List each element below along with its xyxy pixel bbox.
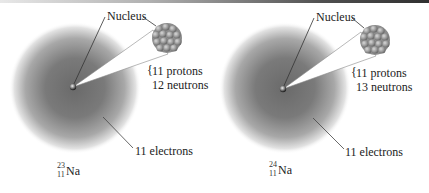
atomic-number: 11 (269, 169, 277, 178)
isotope-notation: 23 11 Na (57, 161, 81, 179)
electrons-label: 11 electrons (345, 145, 403, 159)
isotope-diagram: Nucleus { 11 protons 12 neutrons 11 elec… (0, 0, 429, 193)
nucleus-label: Nucleus (107, 9, 147, 23)
atom-sodium-24: Nucleus { 11 protons 13 neutrons 11 elec… (219, 10, 413, 178)
mass-number: 23 (57, 161, 65, 170)
nucleus-dot (70, 84, 76, 90)
nucleon-cluster (360, 25, 390, 55)
isotope-notation: 24 11 Na (269, 160, 293, 178)
protons-label: 11 protons (152, 64, 203, 78)
atom-sodium-23: Nucleus { 11 protons 12 neutrons 11 elec… (9, 9, 209, 179)
neutrons-label: 13 neutrons (356, 80, 413, 94)
atomic-number: 11 (57, 170, 65, 179)
element-symbol: Na (278, 163, 293, 177)
element-symbol: Na (66, 164, 81, 178)
electrons-label: 11 electrons (135, 144, 193, 158)
neutrons-label: 12 neutrons (152, 78, 209, 92)
nucleus-dot (280, 86, 286, 92)
protons-label: 11 protons (356, 66, 407, 80)
nucleon-cluster (152, 23, 182, 53)
mass-number: 24 (269, 160, 277, 169)
nucleus-label: Nucleus (316, 10, 356, 24)
